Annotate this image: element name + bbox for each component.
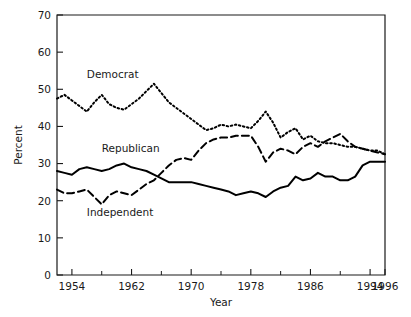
y-tick-label: 20 bbox=[38, 195, 51, 207]
x-tick-label: 1996 bbox=[372, 280, 399, 292]
party-identification-line-chart: 010203040506070 195419621970197819861994… bbox=[0, 0, 411, 317]
x-tick-label: 1954 bbox=[59, 280, 86, 292]
y-tick-label: 60 bbox=[38, 46, 51, 58]
series-label-democrat: Democrat bbox=[87, 68, 139, 80]
y-axis-title: Percent bbox=[12, 125, 24, 165]
x-tick-label: 1970 bbox=[178, 280, 205, 292]
chart-canvas: 010203040506070 195419621970197819861994… bbox=[0, 0, 411, 317]
y-tick-label: 70 bbox=[38, 9, 51, 21]
y-tick-label: 30 bbox=[38, 157, 51, 169]
y-tick-label: 0 bbox=[44, 269, 51, 281]
y-tick-label: 10 bbox=[38, 232, 51, 244]
x-tick-label: 1986 bbox=[297, 280, 324, 292]
series-label-republican: Republican bbox=[102, 142, 160, 154]
series-label-independent: Independent bbox=[87, 206, 154, 218]
y-tick-label: 40 bbox=[38, 120, 51, 132]
x-tick-label: 1962 bbox=[118, 280, 145, 292]
chart-background bbox=[0, 0, 411, 317]
x-tick-label: 1978 bbox=[237, 280, 264, 292]
x-axis-title: Year bbox=[209, 296, 233, 308]
y-tick-label: 50 bbox=[38, 83, 51, 95]
